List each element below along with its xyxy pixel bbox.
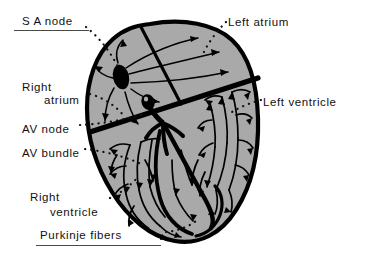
label-av-node: AV node (22, 122, 69, 136)
label-left-atrium: Left atrium (228, 15, 289, 29)
label-sa-node: S A node (22, 14, 73, 28)
heart-conduction-diagram: S A node Left atrium Right atrium Left v… (0, 0, 365, 259)
label-right-ventricle-line1: Right (30, 190, 60, 204)
underline-sa-node (14, 30, 89, 31)
underline-purkinje-fibers (36, 245, 161, 246)
label-av-bundle: AV bundle (22, 146, 80, 160)
label-right-atrium-line2: atrium (44, 93, 80, 107)
av-node-highlight (144, 96, 148, 101)
label-right-ventricle-line2: ventricle (50, 205, 98, 219)
label-left-ventricle: Left ventricle (263, 95, 337, 109)
label-purkinje-fibers: Purkinje fibers (40, 228, 122, 242)
label-right-atrium-line1: Right (22, 80, 52, 94)
